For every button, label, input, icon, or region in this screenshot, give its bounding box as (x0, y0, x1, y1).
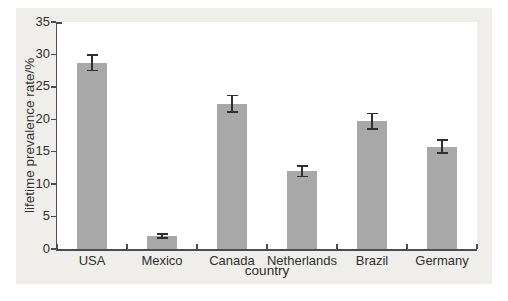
error-bar-cap-top-brazil (367, 113, 378, 115)
y-tick-label-5: 5 (11, 208, 50, 224)
y-tick-15 (51, 151, 56, 153)
bar-brazil (357, 121, 387, 249)
y-tick-5 (51, 216, 56, 218)
y-tick-label-15: 15 (11, 143, 50, 159)
error-bar-line-brazil (371, 113, 373, 129)
y-tick-0 (51, 248, 56, 250)
x-tick-4 (336, 244, 338, 249)
error-bar-line-germany (441, 140, 443, 153)
y-tick-35 (51, 21, 56, 23)
bar-canada (217, 104, 247, 249)
x-tick-2 (196, 244, 198, 249)
y-tick-label-30: 30 (11, 46, 50, 62)
error-bar-cap-bottom-usa (87, 70, 98, 72)
x-axis-title: country (57, 263, 477, 278)
x-tick-6 (476, 244, 478, 249)
plot-area: 05101520253035USAMexicoCanadaNetherlands… (57, 22, 477, 249)
x-tick-0 (56, 244, 58, 249)
y-tick-20 (51, 119, 56, 121)
chart-figure: lifetime prevalence rate/% 0510152025303… (0, 0, 508, 301)
y-tick-label-35: 35 (11, 14, 50, 30)
y-tick-label-10: 10 (11, 176, 50, 192)
error-bar-cap-top-canada (227, 95, 238, 97)
x-axis-line (56, 249, 478, 251)
y-tick-label-20: 20 (11, 111, 50, 127)
x-tick-5 (406, 244, 408, 249)
bar-germany (427, 147, 457, 249)
error-bar-cap-bottom-brazil (367, 128, 378, 130)
y-tick-10 (51, 183, 56, 185)
bar-netherlands (287, 171, 317, 249)
error-bar-line-canada (231, 95, 233, 112)
error-bar-cap-bottom-germany (437, 152, 448, 154)
bar-usa (77, 63, 107, 249)
y-axis-line (56, 22, 58, 251)
error-bar-cap-bottom-canada (227, 111, 238, 113)
error-bar-line-usa (91, 55, 93, 71)
error-bar-cap-top-netherlands (297, 165, 308, 167)
y-tick-25 (51, 86, 56, 88)
error-bar-cap-top-mexico (157, 233, 168, 235)
error-bar-cap-top-germany (437, 139, 448, 141)
y-tick-label-25: 25 (11, 78, 50, 94)
y-tick-30 (51, 54, 56, 56)
error-bar-cap-bottom-mexico (157, 237, 168, 239)
y-axis-end-cap (57, 22, 62, 24)
x-tick-1 (126, 244, 128, 249)
error-bar-cap-bottom-netherlands (297, 176, 308, 178)
error-bar-cap-top-usa (87, 54, 98, 56)
x-tick-3 (266, 244, 268, 249)
